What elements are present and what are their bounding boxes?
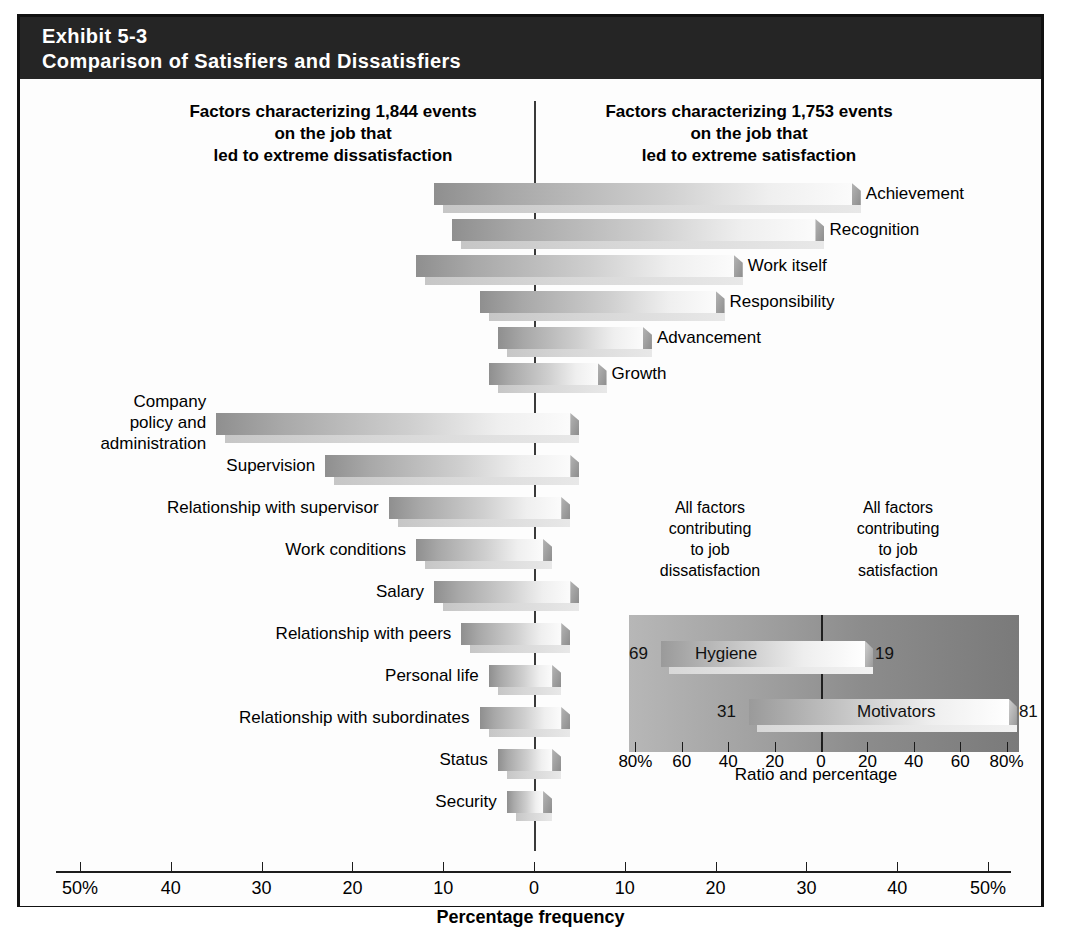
bar-face	[480, 291, 716, 313]
inset-axis-tick	[821, 742, 822, 752]
bar-depth-shadow	[498, 385, 607, 393]
bar-label: Work conditions	[285, 540, 406, 560]
bar-end-cap	[561, 707, 570, 729]
axis-tick-label: 10	[615, 878, 635, 899]
chart-bar	[452, 219, 815, 241]
axis-tick-label: 10	[433, 878, 453, 899]
bar-label: Responsibility	[730, 292, 835, 312]
inset-axis-tick	[728, 742, 729, 752]
axis-tick-label: 30	[796, 878, 816, 899]
exhibit-header: Exhibit 5-3 Comparison of Satisfiers and…	[20, 17, 1041, 79]
bar-depth-shadow	[461, 241, 824, 249]
bar-label: Relationship with peers	[276, 624, 452, 644]
axis-tick	[352, 862, 353, 871]
bar-end-cap	[543, 791, 552, 813]
axis-tick-label: 30	[252, 878, 272, 899]
axis-tick-label: 20	[342, 878, 362, 899]
bar-label: Supervision	[226, 456, 315, 476]
inset-chart-box: Hygiene6919Motivators3181	[629, 615, 1019, 752]
bar-label: Personal life	[385, 666, 479, 686]
axis-tick	[80, 862, 81, 871]
bar-end-cap	[552, 665, 561, 687]
bar-end-cap	[543, 539, 552, 561]
axis-tick	[716, 862, 717, 871]
axis-tick-label: 40	[161, 878, 181, 899]
bar-face	[325, 455, 570, 477]
inset-bar-end-cap	[865, 641, 873, 667]
inset-axis-tick	[960, 742, 961, 752]
inset-axis-tick	[914, 742, 915, 752]
bar-end-cap	[561, 497, 570, 519]
chart-bar	[489, 665, 553, 687]
axis-tick	[171, 862, 172, 871]
chart-bar	[216, 413, 570, 435]
inset-bar-label: Motivators	[857, 702, 935, 722]
column-heading-satisfaction: Factors characterizing 1,753 events on t…	[549, 101, 949, 167]
bar-label: Recognition	[829, 220, 919, 240]
bar-depth-shadow	[425, 561, 552, 569]
axis-tick-label: 50%	[970, 878, 1006, 899]
axis-tick	[625, 862, 626, 871]
exhibit-title: Comparison of Satisfiers and Dissatisfie…	[42, 49, 1041, 74]
bar-row: Security	[20, 791, 1041, 825]
inset-axis-tick	[682, 742, 683, 752]
axis-tick	[806, 862, 807, 871]
inset-bar	[661, 641, 865, 667]
chart-bar	[416, 255, 734, 277]
inset-value-left: 31	[717, 702, 736, 722]
bar-label: Advancement	[657, 328, 761, 348]
bar-label: Relationship with supervisor	[167, 498, 379, 518]
chart-bar	[507, 791, 543, 813]
chart-bar	[480, 707, 562, 729]
inset-axis-tick	[775, 742, 776, 752]
bar-face	[434, 581, 570, 603]
chart-bar	[498, 749, 552, 771]
bar-end-cap	[598, 363, 607, 385]
bar-face	[416, 539, 543, 561]
bar-label: Status	[439, 750, 487, 770]
chart-bar	[480, 291, 716, 313]
chart-bar	[389, 497, 562, 519]
axis-tick	[443, 862, 444, 871]
inset-x-axis-title: Ratio and percentage	[613, 765, 1019, 785]
bar-row: Recognition	[20, 219, 1041, 253]
inset-value-left: 69	[629, 644, 648, 664]
bar-end-cap	[643, 327, 652, 349]
bar-end-cap	[570, 413, 579, 435]
inset-value-right: 19	[875, 644, 894, 664]
bar-label: Company policy and administration	[100, 391, 206, 454]
bar-row: Work itself	[20, 255, 1041, 289]
bar-end-cap	[552, 749, 561, 771]
bar-depth-shadow	[516, 813, 552, 821]
chart-plot-area: Factors characterizing 1,844 events on t…	[20, 79, 1041, 906]
bar-label: Work itself	[748, 256, 827, 276]
bar-label: Relationship with subordinates	[239, 708, 470, 728]
bar-face	[461, 623, 561, 645]
inset-ratio-panel: All factors contributing to job dissatis…	[613, 497, 1019, 787]
inset-value-right: 81	[1019, 702, 1038, 722]
column-heading-dissatisfaction: Factors characterizing 1,844 events on t…	[138, 101, 528, 167]
bar-row: Advancement	[20, 327, 1041, 361]
bar-depth-shadow	[443, 603, 579, 611]
bar-face	[389, 497, 562, 519]
bar-face	[489, 665, 553, 687]
bar-depth-shadow	[398, 519, 571, 527]
bar-depth-shadow	[334, 477, 579, 485]
bar-depth-shadow	[489, 313, 725, 321]
bar-end-cap	[815, 219, 824, 241]
exhibit-figure: Exhibit 5-3 Comparison of Satisfiers and…	[17, 14, 1044, 907]
axis-tick	[988, 862, 989, 871]
chart-bar	[416, 539, 543, 561]
inset-bar-label: Hygiene	[695, 644, 757, 664]
bar-face	[216, 413, 570, 435]
bar-end-cap	[852, 183, 861, 205]
inset-bar-depth-shadow	[757, 725, 1017, 732]
bar-face	[507, 791, 543, 813]
bar-row: Company policy and administration	[20, 413, 1041, 447]
exhibit-number: Exhibit 5-3	[42, 24, 1041, 49]
bar-face	[489, 363, 598, 385]
bar-face	[452, 219, 815, 241]
bar-depth-shadow	[507, 771, 561, 779]
bar-end-cap	[716, 291, 725, 313]
chart-bar	[498, 327, 643, 349]
